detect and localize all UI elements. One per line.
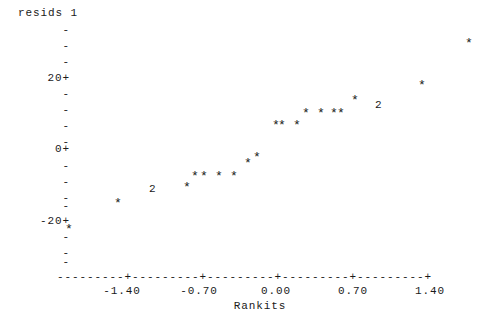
y-axis-tick: - <box>8 56 70 68</box>
y-axis-tick: - <box>8 176 70 188</box>
rankit-residual-plot: resids 1 ---20+----0+-----20+--- **2****… <box>0 0 499 324</box>
x-axis-tick-label: -0.70 <box>169 285 229 297</box>
data-point-marker: * <box>244 157 252 170</box>
data-point-marker: * <box>418 79 426 92</box>
data-point-marker: * <box>65 223 73 236</box>
x-axis-line: ---------+---------+---------+---------+… <box>57 271 432 283</box>
y-axis-tick: - <box>8 160 70 172</box>
data-point-marker: * <box>293 119 301 132</box>
data-point-marker: * <box>200 170 208 183</box>
y-axis-tick: - <box>8 231 70 243</box>
x-axis-tick-label: 0.70 <box>323 285 383 297</box>
data-point-marker: * <box>317 107 325 120</box>
data-point-marker: * <box>215 170 223 183</box>
x-axis-title: Rankits <box>215 300 305 312</box>
data-point-marker: * <box>351 94 359 107</box>
y-axis-title: resids 1 <box>18 7 78 19</box>
data-point-marker: * <box>253 151 261 164</box>
data-point-marker: * <box>230 170 238 183</box>
data-point-marker: * <box>183 181 191 194</box>
data-point-marker: * <box>337 107 345 120</box>
data-point-overplot-count: 2 <box>149 184 156 195</box>
y-axis-tick: - <box>8 88 70 100</box>
data-point-overplot-count: 2 <box>375 100 382 111</box>
y-axis-tick: 20+ <box>8 72 70 84</box>
data-point-marker: * <box>278 119 286 132</box>
data-point-marker: * <box>302 107 310 120</box>
data-point-marker: * <box>114 197 122 210</box>
y-axis-tick: - <box>8 256 70 268</box>
y-axis-tick: - <box>8 104 70 116</box>
x-axis-tick-label: -1.40 <box>92 285 152 297</box>
x-axis-tick-label: 0.00 <box>246 285 306 297</box>
x-axis-tick-label: 1.40 <box>400 285 460 297</box>
y-axis-tick: - <box>8 40 70 52</box>
y-axis-tick: - <box>8 24 70 36</box>
y-axis-tick: - <box>8 200 70 212</box>
data-point-marker: * <box>465 37 473 50</box>
y-axis-tick: 0+ <box>8 143 70 155</box>
y-axis-tick: -20+ <box>8 215 70 227</box>
data-point-marker: * <box>191 170 199 183</box>
y-axis-tick: - <box>8 120 70 132</box>
